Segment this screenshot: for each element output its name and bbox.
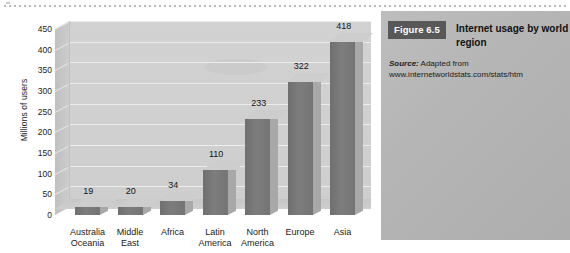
gridline [69, 83, 371, 84]
bar-value-label: 20 [126, 186, 136, 196]
bar-front-face [75, 207, 100, 215]
page-top-dotted-rule [4, 5, 566, 7]
bar-value-label: 233 [251, 98, 266, 108]
bar-chart-figure: Millions of users 0501001502002503003504… [0, 9, 376, 253]
page-top-dot-accent [6, 2, 10, 4]
y-axis-tick-labels: 050100150200250300350400450 [12, 21, 52, 207]
bar-front-face [203, 170, 228, 215]
gridline [69, 62, 371, 63]
figure-source-text: Adapted from [421, 59, 469, 68]
y-axis-tick-label: 300 [12, 86, 52, 96]
bar-front-face [330, 42, 355, 215]
plot-area: 192034110233322418 [55, 13, 371, 225]
figure-source: Source: Adapted fromwww.internetworldsta… [389, 59, 569, 80]
bar-column[interactable]: 233 [245, 107, 270, 215]
x-axis-category-label: Asia [317, 227, 369, 238]
gridline [69, 21, 371, 22]
bar-column[interactable]: 19 [75, 195, 100, 215]
y-axis-tick-label: 350 [12, 65, 52, 75]
figure-caption-panel: Figure 6.5 Internet usage by world regio… [381, 11, 570, 240]
bar-side-face [355, 38, 363, 215]
bar-column[interactable]: 418 [330, 30, 355, 215]
bar-front-face [288, 82, 313, 215]
bar-column[interactable]: 20 [118, 195, 143, 215]
x-axis-category-labels: AustraliaOceaniaMiddleEastAfricaLatinAme… [55, 227, 371, 253]
gridline [69, 42, 371, 43]
bar-column[interactable]: 322 [288, 70, 313, 215]
y-axis-tick-label: 150 [12, 148, 52, 158]
y-axis-tick-label: 400 [12, 45, 52, 55]
bar-value-label: 19 [83, 186, 93, 196]
bar-column[interactable]: 34 [160, 189, 185, 215]
figure-source-label: Source: [389, 59, 419, 68]
gridline [69, 124, 371, 125]
figure-number-badge: Figure 6.5 [388, 21, 446, 39]
bar-value-label: 418 [336, 21, 351, 31]
figure-title: Internet usage by world region [456, 22, 570, 49]
y-axis-tick-label: 250 [12, 107, 52, 117]
bar-side-face [313, 78, 321, 215]
y-axis-tick-label: 450 [12, 24, 52, 34]
y-axis-tick-label: 100 [12, 169, 52, 179]
bar-value-label: 34 [168, 180, 178, 190]
bar-front-face [118, 207, 143, 215]
y-axis-tick-label: 200 [12, 127, 52, 137]
figure-source-url: www.internetworldstats.com/stats/htm [389, 70, 523, 79]
bar-front-face [245, 119, 270, 215]
gridline [69, 145, 371, 146]
y-axis-tick-label: 0 [12, 210, 52, 220]
x-axis-category-line: East [104, 238, 156, 249]
bar-side-face [228, 165, 236, 215]
x-axis-category-line: America [232, 238, 284, 249]
y-axis-line [69, 21, 70, 208]
gridline [69, 104, 371, 105]
bar-value-label: 110 [209, 149, 223, 159]
y-axis-tick-label: 50 [12, 189, 52, 199]
x-axis-category-line: Asia [317, 227, 369, 238]
bar-value-label: 322 [294, 61, 309, 71]
bar-front-face [160, 201, 185, 215]
bar-side-face [270, 114, 278, 215]
bar-column[interactable]: 110 [203, 158, 228, 215]
